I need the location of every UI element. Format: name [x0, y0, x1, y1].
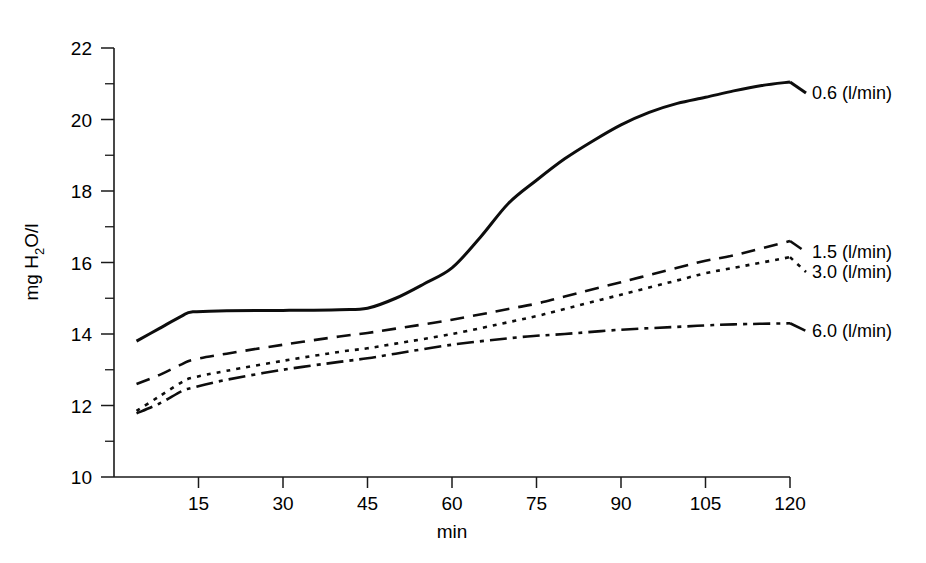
axes-group	[114, 48, 790, 477]
x-axis-title: min	[437, 521, 468, 542]
y-tick-label-14: 14	[71, 324, 93, 345]
svg-text:mg H2O/l: mg H2O/l	[21, 224, 47, 301]
x-tick-label-30: 30	[272, 493, 293, 514]
x-tick-label-90: 90	[610, 493, 631, 514]
y-tick-label-16: 16	[71, 253, 92, 274]
x-tick-label-105: 105	[690, 493, 722, 514]
y-axis-major-ticks	[101, 48, 114, 477]
series-curve-1.5	[137, 241, 790, 384]
y-tick-label-10: 10	[71, 467, 92, 488]
series-curve-6.0	[137, 323, 790, 413]
y-tick-label-18: 18	[71, 181, 92, 202]
series-curve-3.0	[137, 257, 790, 411]
series-leader-6.0	[790, 323, 806, 331]
series-label-1.5: 1.5 (l/min)	[812, 242, 892, 262]
x-axis-ticks	[199, 477, 791, 488]
series-label-6.0: 6.0 (l/min)	[812, 321, 892, 341]
y-axis-tick-labels: 10121416182022	[71, 38, 93, 488]
y-axis-title: mg H2O/l	[21, 224, 47, 301]
y-axis-title-prefix: mg H	[21, 255, 42, 300]
line-chart: 10121416182022 153045607590105120 0.6 (l…	[0, 0, 926, 563]
y-tick-label-12: 12	[71, 396, 92, 417]
x-tick-label-75: 75	[526, 493, 547, 514]
x-tick-label-120: 120	[774, 493, 806, 514]
series-leader-1.5	[790, 241, 806, 252]
x-tick-label-60: 60	[441, 493, 462, 514]
y-tick-label-22: 22	[71, 38, 92, 59]
y-tick-label-20: 20	[71, 110, 92, 131]
chart-container: 10121416182022 153045607590105120 0.6 (l…	[0, 0, 926, 563]
x-tick-label-15: 15	[188, 493, 209, 514]
series-curve-0.6	[137, 82, 790, 341]
series-label-3.0: 3.0 (l/min)	[812, 262, 892, 282]
x-axis-tick-labels: 153045607590105120	[188, 493, 806, 514]
series-label-0.6: 0.6 (l/min)	[812, 83, 892, 103]
series-leader-0.6	[790, 82, 806, 93]
x-tick-label-45: 45	[357, 493, 378, 514]
series-labels: 0.6 (l/min)1.5 (l/min)3.0 (l/min)6.0 (l/…	[790, 82, 892, 341]
y-axis-title-subscript: 2	[32, 248, 47, 255]
series-leader-3.0	[790, 257, 806, 272]
data-curves	[137, 82, 790, 413]
y-axis-title-suffix: O/l	[21, 224, 42, 248]
